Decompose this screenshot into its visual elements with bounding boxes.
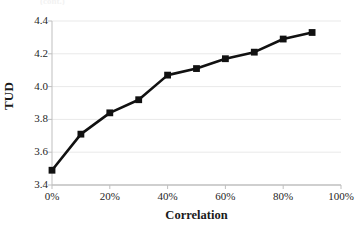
y-axis-ticks xyxy=(48,21,52,185)
data-point-marker xyxy=(251,49,258,56)
data-point-marker xyxy=(106,109,113,116)
data-point-marker xyxy=(193,65,200,72)
data-point-marker xyxy=(78,131,85,138)
data-point-marker xyxy=(280,36,287,43)
plot-area xyxy=(0,0,363,231)
data-point-marker xyxy=(49,167,56,174)
data-point-marker xyxy=(164,72,171,79)
series-line-tud xyxy=(52,32,312,170)
chart-container: (cont.) TUD Correlation 3.43.63.84.04.24… xyxy=(0,0,363,231)
x-axis-ticks xyxy=(52,185,341,189)
axis-lines xyxy=(52,21,341,185)
data-point-marker xyxy=(135,96,142,103)
data-point-marker xyxy=(309,29,316,36)
data-point-marker xyxy=(222,55,229,62)
gridlines xyxy=(52,21,341,185)
